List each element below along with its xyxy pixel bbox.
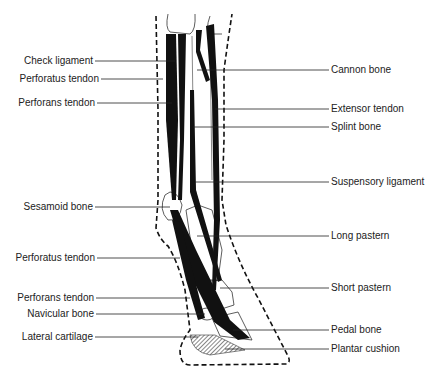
label-suspensory-ligament: Suspensory ligament — [331, 176, 424, 188]
label-perforatus-tendon-lower: Perforatus tendon — [16, 252, 96, 264]
label-cannon-bone: Cannon bone — [331, 64, 391, 76]
label-pedal-bone: Pedal bone — [331, 324, 382, 336]
label-perforans-tendon-upper: Perforans tendon — [18, 97, 95, 109]
label-navicular-bone: Navicular bone — [27, 308, 94, 320]
label-long-pastern: Long pastern — [331, 230, 389, 242]
anatomy-diagram: Check ligament Perforatus tendon Perfora… — [0, 0, 438, 380]
label-short-pastern: Short pastern — [331, 282, 391, 294]
label-perforatus-tendon-upper: Perforatus tendon — [20, 73, 100, 85]
label-check-ligament: Check ligament — [24, 55, 93, 67]
label-lateral-cartilage: Lateral cartilage — [22, 331, 93, 343]
label-plantar-cushion: Plantar cushion — [331, 343, 400, 355]
label-extensor-tendon: Extensor tendon — [331, 103, 404, 115]
label-perforans-tendon-lower: Perforans tendon — [17, 292, 94, 304]
label-sesamoid-bone: Sesamoid bone — [24, 201, 94, 213]
label-splint-bone: Splint bone — [331, 121, 381, 133]
